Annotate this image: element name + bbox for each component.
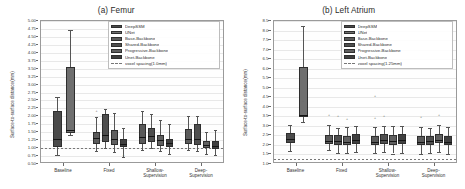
- x-tick-label: Deep-Supervision: [422, 168, 446, 179]
- y-tick-label: 2.0: [233, 141, 271, 146]
- y-tick-mark: [268, 134, 271, 135]
- median-line: [212, 146, 219, 147]
- gridline: [274, 126, 456, 127]
- whisker-cap: [327, 125, 331, 126]
- gridline: [274, 145, 456, 146]
- legend-swatch: [344, 55, 355, 59]
- legend-swatch: [111, 37, 122, 41]
- whisker-cap: [196, 151, 200, 152]
- whisker-cap: [301, 122, 306, 123]
- y-tick-mark: [36, 131, 39, 132]
- gridline: [41, 156, 223, 157]
- median-line: [194, 139, 201, 140]
- whisker-cap: [301, 26, 306, 27]
- legend-item-voxel-spacing[interactable]: voxel spacing(1.0mm): [111, 60, 217, 66]
- whisker-cap: [150, 148, 154, 149]
- median-line: [53, 139, 62, 140]
- outlier-marker: [375, 98, 376, 99]
- x-axis-ticks-femur: BaselineFixedShallow-SupervisionDeep-Sup…: [40, 163, 224, 189]
- legend-label: DeepSSM: [358, 24, 378, 29]
- box-base-backbone: [185, 129, 192, 144]
- box-shared-backbone: [102, 114, 109, 141]
- panel-title-left-atrium: (b) Left Atrium: [233, 6, 465, 15]
- whisker-cap: [104, 109, 108, 110]
- y-tick-label: 7.5: [233, 37, 271, 42]
- whisker-cap: [168, 154, 172, 155]
- panel-left-atrium: (b) Left Atrium Surface-to-surface dista…: [233, 0, 465, 189]
- legend-label: UNet: [358, 30, 368, 35]
- box-deepssm: [53, 111, 62, 147]
- median-line: [166, 143, 173, 144]
- y-tick-mark: [36, 36, 39, 37]
- whisker-cap: [336, 128, 340, 129]
- y-tick-mark: [268, 163, 271, 164]
- whisker-cap: [187, 150, 191, 151]
- gridline: [274, 154, 456, 155]
- whisker-cap: [336, 153, 340, 154]
- voxel-spacing-reference-line: [41, 148, 223, 149]
- y-tick-label: 4.50: [0, 33, 38, 38]
- legend-label: voxel spacing(1.25mm): [358, 61, 402, 66]
- y-tick-label: 4.5: [233, 94, 271, 99]
- whisker-cap: [288, 125, 293, 126]
- y-tick-label: 2.75: [0, 89, 38, 94]
- y-tick-mark: [268, 106, 271, 107]
- outlier-marker: [97, 113, 98, 114]
- y-tick-mark: [268, 39, 271, 40]
- y-tick-mark: [36, 44, 39, 45]
- box-base-backbone: [139, 124, 146, 144]
- whisker-cap: [168, 124, 172, 125]
- legend-label: Unet-Backbone: [125, 55, 155, 60]
- y-tick-label: 1.00: [0, 145, 38, 150]
- legend-swatch: [111, 25, 122, 29]
- y-tick-mark: [268, 115, 271, 116]
- y-tick-label: 1.75: [0, 121, 38, 126]
- whisker-cap: [288, 151, 293, 152]
- whisker-cap: [95, 151, 99, 152]
- x-axis-ticks-left-atrium: BaselineFixedShallow-SupervisionDeep-Sup…: [273, 163, 457, 189]
- whisker-cap: [68, 135, 73, 136]
- legend-swatch: [344, 31, 355, 35]
- box-unet-backbone: [444, 136, 451, 145]
- y-tick-label: 0.50: [0, 161, 38, 166]
- y-tick-mark: [268, 30, 271, 31]
- whisker-cap: [68, 30, 73, 31]
- y-tick-mark: [36, 123, 39, 124]
- y-tick-label: 3.75: [0, 57, 38, 62]
- whisker-cap: [419, 154, 423, 155]
- y-tick-mark: [36, 20, 39, 21]
- whisker-cap: [437, 152, 441, 153]
- legend-swatch: [344, 37, 355, 41]
- legend-label: Progressive-Backbone: [125, 48, 168, 53]
- y-tick-label: 4.75: [0, 25, 38, 30]
- x-tick-label: Shallow-Supervision: [376, 168, 400, 179]
- legend-label: Shared-Backbone: [125, 42, 159, 47]
- median-line: [120, 144, 127, 145]
- median-line: [325, 141, 332, 142]
- median-line: [203, 145, 210, 146]
- legend-left-atrium: DeepSSMUNetBase-BackboneShared-BackboneP…: [341, 21, 453, 69]
- y-tick-label: 5.00: [0, 18, 38, 23]
- whisker-cap: [327, 150, 331, 151]
- legend-label: UNet: [125, 30, 135, 35]
- y-tick-label: 1.50: [0, 129, 38, 134]
- whisker-cap: [391, 126, 395, 127]
- legend-swatch: [111, 55, 122, 59]
- y-tick-label: 3.00: [0, 81, 38, 86]
- y-tick-label: 6.5: [233, 56, 271, 61]
- y-tick-mark: [36, 92, 39, 93]
- whisker-cap: [373, 127, 377, 128]
- median-line: [139, 137, 146, 138]
- x-tick-label: Deep-Supervision: [189, 168, 213, 179]
- y-tick-label: 5.5: [233, 75, 271, 80]
- whisker-cap: [354, 126, 358, 127]
- y-tick-mark: [36, 52, 39, 53]
- y-tick-label: 4.0: [233, 103, 271, 108]
- whisker-cap: [104, 148, 108, 149]
- whisker-cap: [428, 153, 432, 154]
- legend-dashed-line: [111, 63, 122, 64]
- x-tick-label: Shallow-Supervision: [143, 168, 167, 179]
- whisker-cap: [345, 127, 349, 128]
- y-axis-ticks-left-atrium: 8.58.07.57.06.56.05.55.04.54.03.53.02.52…: [233, 20, 271, 163]
- legend-item-voxel-spacing[interactable]: voxel spacing(1.25mm): [344, 60, 450, 66]
